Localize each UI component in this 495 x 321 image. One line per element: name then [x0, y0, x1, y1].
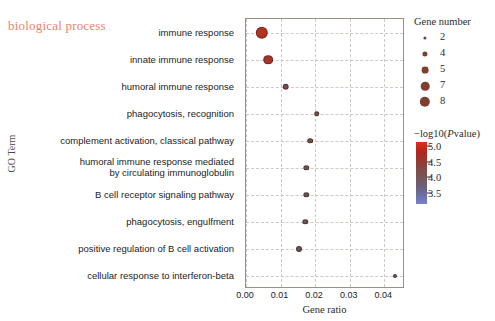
x-tick-label: 0.01 [271, 290, 289, 300]
data-point[interactable] [314, 111, 320, 117]
size-legend-dot [422, 51, 427, 56]
gridline-vertical [384, 19, 385, 287]
colorbar-gradient [416, 142, 427, 204]
size-legend-dot-wrap [414, 46, 436, 62]
data-point[interactable] [255, 26, 267, 38]
category-label-column: immune responseinnate immune responsehum… [30, 18, 240, 288]
colorbar-tick-label: 4.0 [428, 172, 441, 183]
size-legend-dot-wrap [414, 94, 436, 110]
go-enrichment-dotplot: biological process GO Term immune respon… [0, 0, 495, 321]
size-legend: Gene number 24578 [414, 16, 492, 110]
x-tick-label: 0.03 [340, 290, 358, 300]
colorbar-tick-label: 3.5 [428, 187, 441, 198]
pvalue-italic-p: P [447, 128, 453, 139]
size-legend-item: 7 [414, 78, 492, 94]
size-legend-item: 8 [414, 94, 492, 110]
data-point[interactable] [304, 192, 309, 197]
gridline-horizontal [246, 276, 403, 277]
plot-area [245, 18, 404, 288]
size-legend-item: 2 [414, 30, 492, 46]
gridline-horizontal [246, 141, 403, 142]
gridline-horizontal [246, 222, 403, 223]
gridline-vertical [281, 19, 282, 287]
color-legend: −log10(Pvalue) 5.04.54.03.5 [414, 128, 492, 204]
size-legend-dot-wrap [414, 78, 436, 94]
size-legend-value: 8 [440, 95, 445, 106]
data-point[interactable] [393, 274, 397, 278]
gridline-horizontal [246, 168, 403, 169]
data-point[interactable] [303, 219, 308, 224]
category-label: cellular response to interferon-beta [87, 269, 234, 280]
category-label: humoral immune response mediated by circ… [80, 156, 234, 178]
category-label: complement activation, classical pathway [60, 134, 234, 145]
data-point[interactable] [296, 246, 302, 252]
colorbar-tick-label: 4.5 [428, 156, 441, 167]
x-axis-tick-labels: 0.000.010.020.030.04 [245, 290, 404, 304]
size-legend-dot-wrap [414, 30, 436, 46]
size-legend-dot-wrap [414, 62, 436, 78]
gridline-horizontal [246, 249, 403, 250]
category-label: innate immune response [130, 53, 234, 64]
gridline-vertical [315, 19, 316, 287]
category-label: B cell receptor signaling pathway [95, 188, 234, 199]
x-tick-label: 0.04 [374, 290, 392, 300]
category-label: immune response [158, 26, 234, 37]
gridline-horizontal [246, 195, 403, 196]
size-legend-value: 2 [440, 31, 445, 42]
size-legend-item: 4 [414, 46, 492, 62]
colorbar-tick-label: 5.0 [428, 141, 441, 152]
color-legend-title: −log10(Pvalue) [414, 128, 492, 139]
data-point[interactable] [307, 138, 313, 144]
gridline-horizontal [246, 114, 403, 115]
size-legend-items: 24578 [414, 30, 492, 110]
x-axis-title: Gene ratio [245, 304, 404, 315]
size-legend-dot [421, 82, 430, 91]
size-legend-item: 5 [414, 62, 492, 78]
size-legend-title: Gene number [414, 16, 492, 27]
data-point[interactable] [304, 165, 309, 170]
size-legend-value: 5 [440, 63, 445, 74]
x-tick-label: 0.02 [305, 290, 323, 300]
size-legend-dot [422, 67, 429, 74]
size-legend-dot [423, 36, 426, 39]
gridline-horizontal [246, 33, 403, 34]
size-legend-dot [420, 97, 430, 107]
category-label: humoral immune response [122, 80, 234, 91]
size-legend-value: 7 [440, 79, 445, 90]
gridline-vertical [246, 19, 247, 287]
colorbar-wrap: 5.04.54.03.5 [414, 142, 484, 204]
x-tick-label: 0.00 [236, 290, 254, 300]
category-label: phagocytosis, engulfment [126, 215, 234, 226]
y-axis-title: GO Term [6, 124, 17, 184]
gridline-vertical [350, 19, 351, 287]
data-point[interactable] [264, 55, 274, 65]
gridline-horizontal [246, 87, 403, 88]
data-point[interactable] [282, 83, 289, 90]
category-label: phagocytosis, recognition [127, 107, 234, 118]
category-label: positive regulation of B cell activation [78, 242, 234, 253]
size-legend-value: 4 [440, 47, 445, 58]
